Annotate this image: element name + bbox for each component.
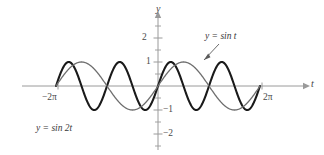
sine-comparison-figure: y t 2 1 −1 −2 −2π 2π y = sin t y = sin 2… bbox=[0, 0, 324, 155]
curve-label-sin-2t: y = sin 2t bbox=[36, 124, 72, 134]
y-tick-label-1: 1 bbox=[146, 57, 151, 67]
x-axis-label: t bbox=[311, 79, 314, 89]
y-axis-label: y bbox=[156, 4, 160, 14]
curve-label-sin-t: y = sin t bbox=[205, 32, 236, 42]
y-tick-label-2: 2 bbox=[142, 33, 147, 43]
sin-t-leader-line bbox=[204, 44, 219, 60]
y-tick-label-neg1: −1 bbox=[163, 105, 173, 115]
y-tick-label-neg2: −2 bbox=[163, 129, 173, 139]
x-endpoint-label-minus-two-pi: −2π bbox=[42, 93, 57, 103]
x-endpoint-label-two-pi: 2π bbox=[263, 93, 273, 103]
